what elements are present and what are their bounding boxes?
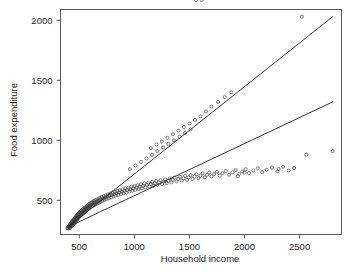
- data-point: [221, 172, 224, 175]
- data-point: [199, 115, 202, 118]
- x-axis-ticks: 5001000150020002500: [71, 235, 310, 252]
- data-point: [178, 175, 181, 178]
- figure-caption-fragment: [8, 269, 338, 277]
- data-point: [195, 173, 198, 176]
- data-point: [193, 118, 196, 121]
- data-point: [210, 175, 213, 178]
- data-point: [213, 172, 216, 175]
- data-points: [66, 0, 334, 230]
- data-point: [149, 147, 152, 150]
- y-tick-label: 2000: [31, 15, 52, 26]
- data-point: [160, 140, 163, 143]
- fit-line-upper-fit: [68, 17, 332, 227]
- data-point: [230, 91, 233, 94]
- fit-line-lower-fit: [68, 102, 332, 227]
- data-point: [218, 174, 221, 177]
- data-point: [244, 168, 247, 171]
- x-tick-label: 2000: [234, 241, 255, 252]
- data-point: [204, 110, 207, 113]
- data-point: [166, 136, 169, 139]
- data-point: [189, 174, 192, 177]
- y-axis-title: Food expenditure: [8, 83, 19, 157]
- x-tick-label: 500: [71, 241, 87, 252]
- data-point: [256, 167, 259, 170]
- y-tick-label: 1500: [31, 75, 52, 86]
- data-point: [252, 169, 255, 172]
- data-point: [261, 171, 264, 174]
- data-point: [145, 157, 148, 160]
- data-point: [331, 150, 334, 153]
- y-tick-label: 1000: [31, 135, 52, 146]
- data-point: [134, 164, 137, 167]
- y-tick-label: 500: [37, 195, 53, 206]
- data-point: [159, 179, 162, 182]
- data-point: [201, 172, 204, 175]
- data-point: [300, 15, 303, 18]
- data-point: [155, 143, 158, 146]
- data-point: [194, 0, 197, 2]
- data-point: [139, 160, 142, 163]
- data-point: [128, 168, 131, 171]
- data-point: [224, 169, 227, 172]
- data-point: [182, 126, 185, 129]
- data-point: [223, 96, 226, 99]
- data-point: [161, 146, 164, 149]
- data-point: [177, 129, 180, 132]
- x-tick-label: 1000: [124, 241, 145, 252]
- data-point: [184, 174, 187, 177]
- data-point: [293, 167, 296, 170]
- data-point: [234, 169, 237, 172]
- data-point: [217, 100, 220, 103]
- data-point: [210, 105, 213, 108]
- data-point: [247, 172, 250, 175]
- x-axis-title: Household income: [161, 253, 240, 264]
- x-tick-label: 2500: [289, 241, 310, 252]
- data-point: [282, 165, 285, 168]
- data-point: [265, 168, 268, 171]
- data-point: [305, 153, 308, 156]
- data-point: [150, 153, 153, 156]
- fit-lines: [68, 17, 332, 227]
- data-point: [208, 171, 211, 174]
- data-point: [167, 142, 170, 145]
- data-point: [200, 0, 203, 2]
- data-point: [287, 169, 290, 172]
- data-point: [156, 150, 159, 153]
- figure-container: 5001000150020002500 500100015002000 Hous…: [0, 0, 350, 277]
- data-point: [271, 166, 274, 169]
- data-point: [188, 122, 191, 125]
- scatter-plot: 5001000150020002500 500100015002000 Hous…: [0, 0, 350, 277]
- data-point: [215, 170, 218, 173]
- x-tick-label: 1500: [179, 241, 200, 252]
- y-axis-ticks: 500100015002000: [31, 15, 60, 206]
- data-point: [228, 173, 231, 176]
- data-point: [231, 171, 234, 174]
- data-point: [171, 133, 174, 136]
